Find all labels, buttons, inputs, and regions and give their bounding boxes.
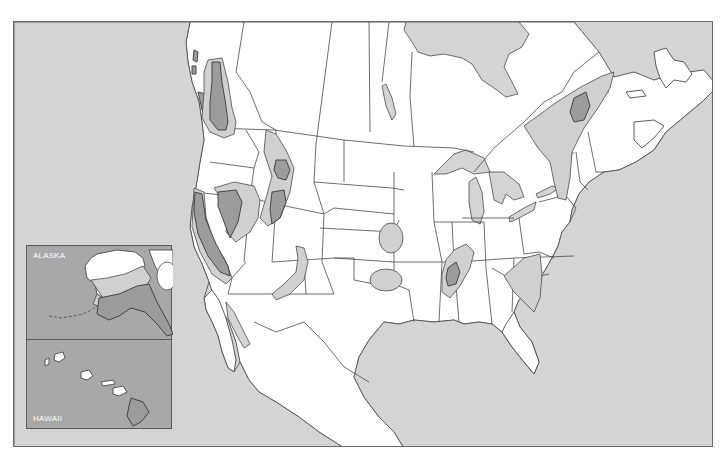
aleutian-islands	[49, 306, 97, 318]
hawaii-oahu	[81, 370, 93, 380]
hawaii-kauai	[54, 352, 65, 362]
map-frame: ALASKA HAWAII	[13, 21, 713, 447]
alaska-label: ALASKA	[33, 251, 65, 260]
inset-divider	[27, 339, 171, 340]
zone-kansas-light	[379, 223, 403, 253]
canada-white-area	[157, 262, 173, 290]
zone-oklahoma-light	[370, 269, 402, 291]
hawaii-niihau	[45, 358, 49, 366]
inset-map	[27, 246, 173, 430]
alaska-hawaii-inset: ALASKA HAWAII	[26, 245, 172, 429]
hawaii-maui	[113, 386, 127, 396]
hawaii-big-island	[127, 398, 149, 426]
hawaii-molokai	[101, 380, 115, 386]
anticosti-island	[626, 90, 646, 98]
hawaii-label: HAWAII	[33, 414, 62, 423]
